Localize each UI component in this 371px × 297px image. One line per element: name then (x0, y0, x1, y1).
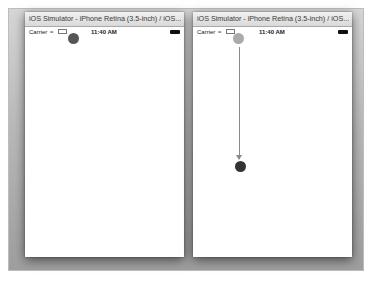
simulator-window-right: iOS Simulator - iPhone Retina (3.5-inch)… (193, 12, 352, 257)
ios-status-bar: Carrier ≈ 11:40 AM (193, 27, 352, 37)
dot-start-position (233, 33, 244, 44)
simulator-window-left: iOS Simulator - iPhone Retina (3.5-inch)… (25, 12, 184, 257)
wifi-icon: ≈ (50, 27, 53, 37)
status-time: 11:40 AM (91, 27, 117, 37)
drag-arrow-head-icon (236, 155, 242, 160)
draggable-dot[interactable] (235, 161, 246, 172)
battery-icon (338, 30, 348, 34)
battery-icon (170, 30, 180, 34)
window-titlebar[interactable]: iOS Simulator - iPhone Retina (3.5-inch)… (25, 12, 184, 27)
carrier-label: Carrier (29, 27, 47, 37)
wifi-icon: ≈ (218, 27, 221, 37)
carrier-label: Carrier (197, 27, 215, 37)
ios-status-bar: Carrier ≈ 11:40 AM (25, 27, 184, 37)
drag-path-line (239, 47, 240, 156)
app-screen[interactable] (25, 37, 184, 258)
network-indicator (58, 29, 67, 34)
window-titlebar[interactable]: iOS Simulator - iPhone Retina (3.5-inch)… (193, 12, 352, 27)
network-indicator (226, 29, 235, 34)
draggable-dot[interactable] (68, 33, 79, 44)
status-time: 11:40 AM (259, 27, 285, 37)
app-screen[interactable] (193, 37, 352, 258)
